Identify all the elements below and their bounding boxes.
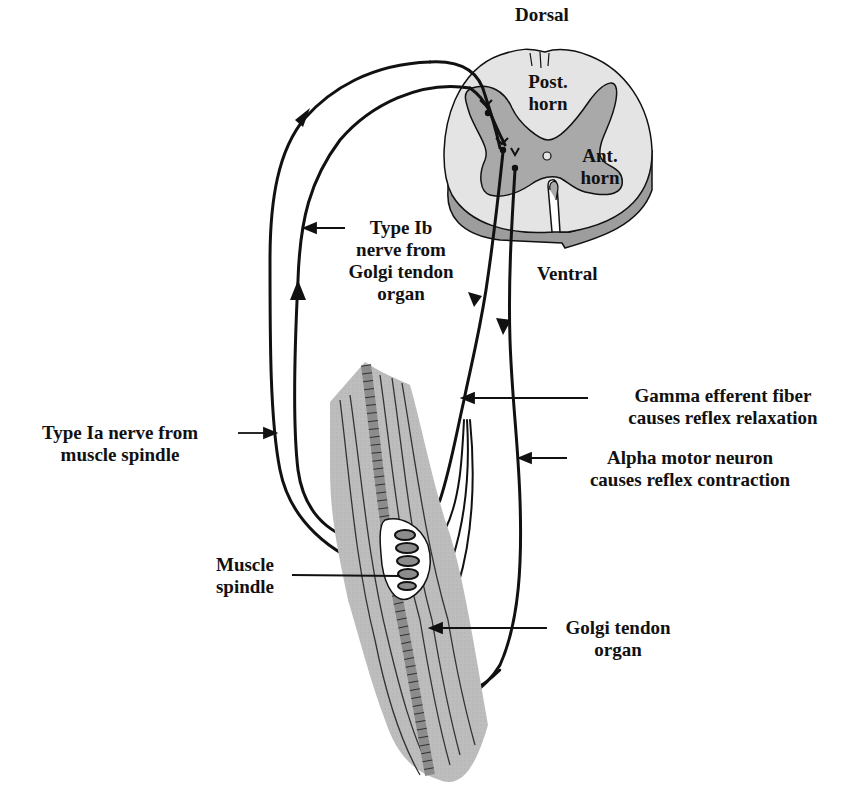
type-ib-label: Type Ib nerve from Golgi tendon organ [326, 217, 476, 305]
central-canal [543, 152, 551, 160]
alpha-motor-label: Alpha motor neuron causes reflex contrac… [565, 447, 815, 491]
golgi-line-2: organ [553, 639, 683, 661]
posterior-horn-line-2: horn [518, 93, 578, 115]
reflex-diagram: Dorsal Post. horn Ant. horn Ventral Type… [0, 0, 854, 797]
muscle-spindle-line-1: Muscle [200, 554, 290, 576]
type-ib-line-4: organ [326, 283, 476, 305]
arrowhead-icon [295, 108, 310, 127]
muscle-spindle-line-2: spindle [200, 576, 290, 598]
alpha-line-2: causes reflex contraction [565, 469, 815, 491]
type-ia-line-2: muscle spindle [10, 444, 230, 466]
dorsal-label: Dorsal [515, 4, 569, 26]
posterior-horn-line-1: Post. [518, 71, 578, 93]
gamma-efferent-label: Gamma efferent fiber causes reflex relax… [598, 385, 848, 429]
anterior-horn-line-2: horn [575, 167, 625, 189]
type-ib-line-2: nerve from [326, 239, 476, 261]
golgi-tendon-organ-label: Golgi tendon organ [553, 617, 683, 661]
gamma-line-1: Gamma efferent fiber [598, 385, 848, 407]
anterior-horn-line-1: Ant. [575, 145, 625, 167]
muscle-spindle-label: Muscle spindle [200, 554, 290, 598]
type-ia-line-1: Type Ia nerve from [10, 422, 230, 444]
anterior-horn-label: Ant. horn [575, 145, 625, 189]
golgi-line-1: Golgi tendon [553, 617, 683, 639]
alpha-line-1: Alpha motor neuron [565, 447, 815, 469]
posterior-horn-label: Post. horn [518, 71, 578, 115]
ventral-label: Ventral [537, 263, 598, 285]
gamma-line-2: causes reflex relaxation [598, 407, 848, 429]
type-ib-line-3: Golgi tendon [326, 261, 476, 283]
type-ib-line-1: Type Ib [326, 217, 476, 239]
arrowhead-icon [290, 280, 306, 300]
type-ia-label: Type Ia nerve from muscle spindle [10, 422, 230, 466]
